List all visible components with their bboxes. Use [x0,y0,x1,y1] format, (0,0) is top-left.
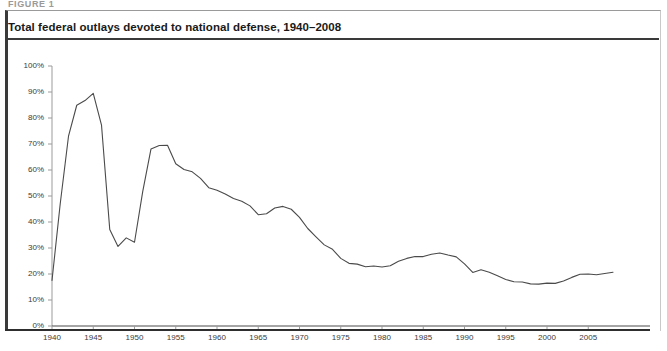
figure-frame [5,10,661,331]
title-divider [6,38,659,40]
y-axis-tick-label: 80% [14,114,44,122]
figure-root: FIGURE 1 Total federal outlays devoted t… [0,0,667,351]
figure-footnote-cropped [120,341,667,351]
y-axis-tick-label: 60% [14,166,44,174]
figure-number-cropped: FIGURE 1 [8,0,128,7]
y-axis-tick-label: 70% [14,140,44,148]
y-axis-tick-label: 40% [14,218,44,226]
figure-bottom-divider [5,329,650,331]
y-axis-tick-label: 10% [14,296,44,304]
y-axis-tick-label: 20% [14,270,44,278]
y-axis-tick-label: 100% [14,62,44,70]
x-axis-tick-label: 1940 [35,334,69,342]
page-title: Total federal outlays devoted to nationa… [8,16,648,38]
y-axis-tick-label: 30% [14,244,44,252]
x-axis-tick-label: 1945 [76,334,110,342]
title-bar: Total federal outlays devoted to nationa… [8,16,648,38]
y-axis-tick-label: 50% [14,192,44,200]
y-axis-tick-label: 90% [14,88,44,96]
